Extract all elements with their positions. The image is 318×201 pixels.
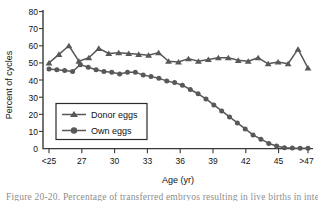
y-tick-label: 70	[29, 24, 39, 34]
data-point-marker-circle	[86, 65, 91, 70]
data-point-marker-circle	[203, 96, 208, 101]
data-point-marker-triangle	[95, 45, 102, 51]
legend-label-own-eggs: Own eggs	[91, 126, 132, 136]
line-chart: Percent of cycles 80 70 60 50 40 30 20 1…	[0, 0, 318, 201]
data-point-marker-circle	[125, 70, 130, 75]
data-point-marker-circle	[172, 80, 177, 85]
data-point-marker-circle	[180, 83, 185, 88]
data-point-marker-circle	[290, 146, 295, 151]
data-point-marker-circle	[298, 146, 303, 151]
data-point-marker-circle	[94, 67, 99, 72]
legend-label-donor-eggs: Donor eggs	[91, 110, 138, 120]
data-point-marker-circle	[196, 91, 201, 96]
data-point-marker-circle	[188, 87, 193, 92]
data-point-marker-circle	[274, 144, 279, 149]
data-point-marker-circle	[251, 132, 256, 137]
x-tick-label: 33	[143, 156, 153, 166]
data-point-marker-circle	[62, 68, 67, 73]
x-tick-label: <25	[42, 156, 57, 166]
data-point-marker-circle	[117, 72, 122, 77]
y-axis-title: Percent of cycles	[4, 50, 14, 119]
x-tick-label: 30	[110, 156, 120, 166]
data-point-marker-circle	[227, 114, 232, 119]
y-tick-label: 10	[29, 127, 39, 137]
data-point-marker-circle	[258, 137, 263, 142]
y-tick-label: 60	[29, 41, 39, 51]
data-point-marker-circle	[266, 141, 271, 146]
data-point-marker-circle	[149, 74, 154, 79]
x-tick-label: 36	[175, 156, 185, 166]
circle-marker-icon	[71, 127, 77, 133]
data-point-marker-circle	[219, 108, 224, 113]
y-tick-label: 30	[29, 93, 39, 103]
data-point-marker-circle	[109, 70, 114, 75]
y-tick-label: 80	[29, 7, 39, 17]
data-point-marker-triangle	[185, 56, 192, 62]
x-tick-label: 45	[274, 156, 284, 166]
x-tick-label: >47	[299, 156, 314, 166]
y-tick-labels: 80 70 60 50 40 30 20 10 0	[29, 7, 39, 154]
data-point-marker-circle	[78, 62, 83, 67]
figure-container: Percent of cycles 80 70 60 50 40 30 20 1…	[0, 0, 318, 201]
data-point-marker-circle	[133, 70, 138, 75]
data-point-marker-circle	[47, 66, 52, 71]
data-point-marker-circle	[141, 72, 146, 77]
x-tick-labels: <25 27 30 33 36 39 42 45 >47	[42, 156, 314, 166]
chart-legend: Donor eggs Own eggs	[56, 104, 147, 140]
data-point-marker-circle	[235, 120, 240, 125]
data-point-marker-circle	[156, 76, 161, 81]
data-point-marker-circle	[54, 67, 59, 72]
data-point-marker-circle	[282, 145, 287, 150]
y-tick-label: 50	[29, 58, 39, 68]
figure-caption: Figure 20-20. Percentage of transferred …	[0, 192, 318, 201]
x-tick-label: 42	[241, 156, 251, 166]
x-tick-label: 39	[208, 156, 218, 166]
data-point-marker-triangle	[255, 55, 262, 61]
data-point-marker-triangle	[295, 46, 302, 52]
data-point-marker-circle	[306, 146, 311, 151]
data-point-marker-circle	[211, 102, 216, 107]
data-point-marker-circle	[101, 69, 106, 74]
y-tick-label: 20	[29, 110, 39, 120]
x-tick-label: 27	[77, 156, 87, 166]
data-point-marker-circle	[243, 126, 248, 131]
y-tick-label: 40	[29, 76, 39, 86]
data-point-marker-triangle	[155, 50, 162, 56]
data-point-marker-circle	[164, 78, 169, 83]
x-axis-title: Age (yr)	[162, 175, 194, 185]
y-tick-label: 0	[33, 144, 38, 154]
figure-caption-text: Figure 20-20. Percentage of transferred …	[6, 192, 318, 201]
data-point-marker-triangle	[65, 43, 72, 49]
data-point-marker-triangle	[305, 65, 312, 71]
data-point-marker-circle	[70, 69, 75, 74]
